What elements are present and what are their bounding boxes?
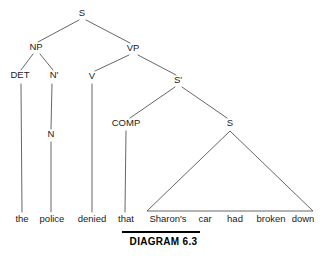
word-down: down: [292, 213, 315, 224]
edge-comp-to-that: [125, 131, 126, 212]
word-car: car: [198, 213, 211, 224]
edge-s-to-np: [38, 20, 79, 42]
word-that: that: [118, 213, 134, 224]
node-embedded-s: S: [227, 117, 233, 128]
node-s-bar: S': [174, 74, 182, 85]
word-broken: broken: [256, 213, 285, 224]
word-denied: denied: [78, 213, 107, 224]
word-sharons: Sharon's: [149, 213, 186, 224]
node-root-s: S: [79, 7, 85, 18]
figure-caption: DIAGRAM 6.3: [0, 236, 323, 247]
syntax-tree-graphic: S NP VP DET N' V S' N COMP S the police …: [0, 0, 323, 256]
edge-vp-to-v: [95, 55, 129, 71]
node-det: DET: [11, 69, 30, 80]
edge-vp-to-sbar: [138, 55, 176, 75]
edge-nbar-to-n: [51, 84, 52, 129]
node-vp: VP: [127, 42, 140, 53]
diagram-canvas: S NP VP DET N' V S' N COMP S the police …: [0, 0, 323, 256]
caption-text: DIAGRAM 6.3: [130, 236, 198, 247]
node-v: V: [89, 70, 96, 81]
node-n: N: [48, 128, 55, 139]
embedded-clause-triangle: [147, 131, 313, 211]
edge-det-to-the: [21, 84, 22, 212]
word-the: the: [15, 213, 28, 224]
edge-s-to-vp: [86, 20, 130, 43]
edge-np-to-det: [21, 54, 33, 70]
word-police: police: [40, 213, 65, 224]
node-comp: COMP: [112, 117, 141, 128]
edge-sbar-to-comp: [130, 87, 175, 118]
word-had: had: [227, 213, 243, 224]
node-np: NP: [29, 41, 42, 52]
node-n-bar: N': [50, 69, 59, 80]
edge-np-to-nbar: [40, 54, 53, 70]
edge-sbar-to-s: [182, 87, 227, 118]
